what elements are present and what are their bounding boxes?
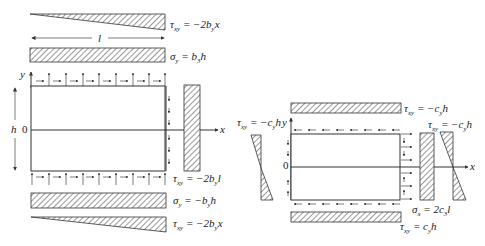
left-shear-upper-triangle — [251, 135, 261, 168]
bottom-edge-tractions — [32, 173, 165, 185]
top-edge-tractions — [36, 73, 165, 86]
bottom-shear-distribution — [31, 217, 166, 232]
right-shear-label: τxy = −2byl — [173, 172, 221, 187]
bottom-shear-label: τxy = −2byx — [173, 217, 223, 232]
top-normal-distribution — [30, 48, 165, 62]
left-shear-lower-triangle — [261, 168, 273, 200]
stress-distribution-diagram: τxy = −2byx l σy = b3h y — [0, 0, 485, 246]
right-normal-label: σx = 2c3l — [412, 203, 450, 218]
right-shear-lower-triangle — [453, 167, 466, 200]
x-axis-label-right: x — [469, 160, 475, 172]
y-axis-label-right: y — [281, 116, 287, 128]
origin-label: 0 — [22, 123, 28, 135]
right-shear-label-right: τxy = −cyh — [428, 118, 473, 133]
bottom-normal-distribution — [31, 193, 166, 208]
height-dimension: h — [11, 88, 17, 170]
top-normal-label: σy = b3h — [170, 50, 206, 65]
top-shear-distribution — [30, 14, 165, 30]
top-shear-label-right: τxy = −cyh — [404, 102, 449, 117]
top-shear-label: τxy = −2byx — [170, 18, 220, 33]
right-shear-distribution — [184, 85, 200, 171]
left-shear-label-right: τxy = −cyh — [237, 116, 282, 131]
right-normal-distribution — [420, 133, 434, 200]
bottom-normal-label: σy = −byh — [173, 194, 217, 209]
bottom-shear-distribution-right — [291, 212, 401, 222]
top-shear-distribution-right — [291, 103, 401, 113]
y-axis-label: y — [19, 68, 25, 80]
x-axis-label: x — [219, 123, 225, 135]
length-dimension: l — [32, 32, 164, 44]
bottom-shear-label-right: τxy = cyh — [400, 220, 437, 235]
height-label: h — [11, 123, 17, 135]
right-shear-upper-triangle — [440, 132, 453, 167]
left-body — [31, 86, 165, 171]
length-label: l — [98, 32, 101, 44]
origin-label-right: 0 — [283, 159, 289, 171]
right-diagram: τxy = −cyh τxy = −cyh y 0 — [237, 102, 475, 235]
left-diagram: τxy = −2byx l σy = b3h y — [11, 14, 225, 232]
